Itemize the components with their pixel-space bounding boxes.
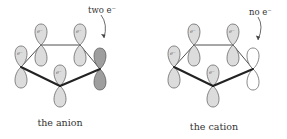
electron-label-C5: e⁻ bbox=[56, 69, 62, 75]
p-orbital-lobe-C5-bottom bbox=[54, 86, 66, 107]
anion-caption: the anion bbox=[37, 117, 82, 128]
electron-label-C2: e⁻ bbox=[190, 28, 196, 34]
cyclopentadienyl-diagram: e⁻e⁻e⁻e⁻ e⁻e⁻e⁻e⁻ the anion the cation t… bbox=[0, 0, 287, 139]
cation-caption: the cation bbox=[190, 121, 238, 132]
p-orbital-lobe-C3-bottom bbox=[227, 45, 239, 66]
p-orbital-lobe-C4-top bbox=[94, 48, 106, 69]
p-orbital-lobe-C2-bottom bbox=[35, 45, 47, 66]
electron-label-C2: e⁻ bbox=[37, 28, 43, 34]
diagram-canvas: e⁻e⁻e⁻e⁻ e⁻e⁻e⁻e⁻ the anion the cation t… bbox=[0, 0, 287, 139]
p-orbital-lobe-C3-bottom bbox=[74, 45, 86, 66]
electron-label-C3: e⁻ bbox=[229, 28, 235, 34]
electron-label-C1: e⁻ bbox=[17, 50, 23, 56]
cation-note-no-electrons: no e⁻ bbox=[249, 7, 272, 17]
anion-note-two-electrons: two e⁻ bbox=[88, 5, 116, 15]
p-orbital-lobe-C4-bottom bbox=[94, 69, 106, 90]
p-orbital-lobe-C4-top bbox=[247, 48, 259, 69]
anion-panel: e⁻e⁻e⁻e⁻ bbox=[15, 24, 106, 107]
electron-label-C1: e⁻ bbox=[170, 50, 176, 56]
electron-label-C3: e⁻ bbox=[76, 28, 82, 34]
electron-label-C5: e⁻ bbox=[209, 69, 215, 75]
p-orbital-lobe-C5-bottom bbox=[207, 86, 219, 107]
cation-panel: e⁻e⁻e⁻e⁻ bbox=[168, 24, 259, 107]
p-orbital-lobe-C2-bottom bbox=[188, 45, 200, 66]
p-orbital-lobe-C4-bottom bbox=[247, 69, 259, 90]
